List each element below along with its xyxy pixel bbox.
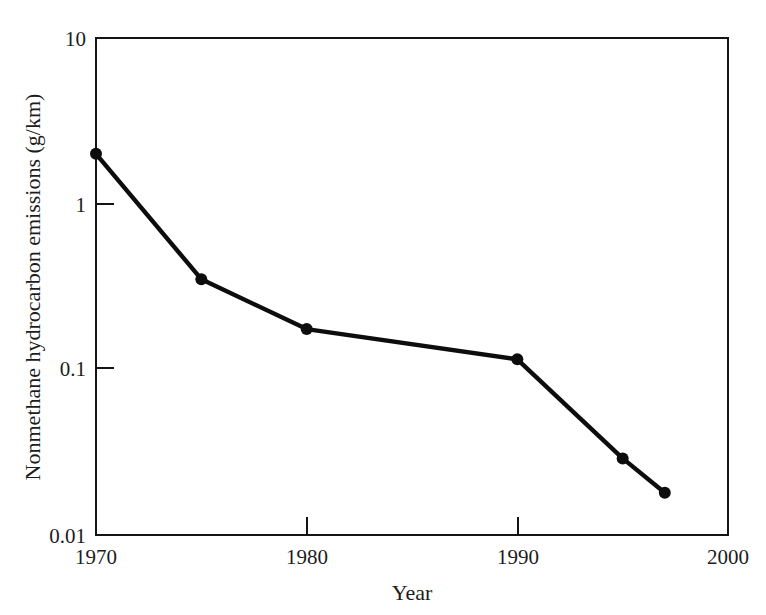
x-tick-label-2000: 2000	[707, 545, 749, 569]
data-point	[301, 323, 313, 335]
x-tick-label-1970: 1970	[75, 545, 117, 569]
data-point	[511, 353, 523, 365]
data-point	[617, 452, 629, 464]
y-axis-title: Nonmethane hydrocarbon emissions (g/km)	[20, 94, 45, 481]
series-markers	[90, 148, 671, 499]
x-tick-label-1990: 1990	[497, 545, 539, 569]
y-tick-label-1: 1	[76, 193, 87, 217]
y-axis-ticks	[96, 204, 114, 368]
y-tick-label-0.1: 0.1	[60, 357, 86, 381]
line-chart: 10 1 0.1 0.01 1970 1980 1990 2000 Year N…	[0, 0, 766, 615]
data-point	[659, 487, 671, 499]
chart-figure: 10 1 0.1 0.01 1970 1980 1990 2000 Year N…	[0, 0, 766, 615]
plot-frame	[96, 38, 728, 535]
x-tick-label-1980: 1980	[286, 545, 328, 569]
x-axis-ticks	[96, 517, 728, 535]
data-point	[90, 148, 102, 160]
series-line-nonmethane-hydrocarbon	[96, 154, 665, 493]
y-tick-label-10: 10	[65, 27, 86, 51]
x-axis-title: Year	[392, 580, 433, 605]
data-point	[195, 273, 207, 285]
